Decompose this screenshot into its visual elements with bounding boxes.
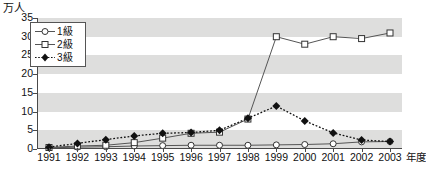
x-axis-tick-label: 1999	[265, 151, 288, 164]
x-axis-tick-label: 1991	[37, 151, 60, 164]
legend-item-1: 1級	[34, 25, 82, 38]
plot-area	[37, 18, 402, 149]
y-axis-tick	[33, 112, 37, 113]
series-layer	[37, 18, 402, 149]
legend-marker-open-square-icon	[34, 39, 56, 50]
x-axis-tick-label: 1994	[123, 151, 146, 164]
x-axis-tick-label: 2001	[321, 151, 344, 164]
y-axis-tick	[33, 18, 37, 19]
data-point-marker-open-square	[273, 34, 279, 40]
legend-marker-open-circle-icon	[34, 26, 56, 37]
x-axis-tick-label: 1996	[179, 151, 202, 164]
x-axis-tick-label: 2002	[350, 151, 373, 164]
y-axis-tick-label: 20	[21, 68, 33, 79]
y-axis-tick	[33, 93, 37, 94]
y-axis-tick	[33, 74, 37, 75]
data-point-marker-open-circle	[302, 142, 308, 148]
legend-label-3: 3級	[57, 52, 73, 63]
legend-item-2: 2級	[34, 38, 82, 51]
data-point-marker-filled-diamond	[130, 132, 138, 140]
legend-label-1: 1級	[57, 26, 73, 37]
x-axis-tick-label: 1997	[208, 151, 231, 164]
data-point-marker-filled-diamond	[386, 138, 394, 146]
y-axis-tick-label: 15	[21, 87, 33, 98]
chart-legend: 1級 2級 3級	[30, 22, 86, 67]
legend-item-3: 3級	[34, 51, 82, 64]
data-point-marker-open-circle	[273, 142, 279, 148]
legend-label-2: 2級	[57, 39, 73, 50]
data-point-marker-open-square	[330, 34, 336, 40]
y-axis-tick	[33, 149, 37, 150]
x-axis-tick-label: 1998	[236, 151, 259, 164]
x-axis-tick-label: 1993	[94, 151, 117, 164]
y-axis-tick-label: 10	[21, 106, 33, 117]
data-point-marker-filled-diamond	[329, 129, 337, 137]
x-axis-tick-label: 2000	[293, 151, 316, 164]
x-axis-tick-label: 1995	[151, 151, 174, 164]
y-axis-tick	[33, 130, 37, 131]
data-point-marker-open-square	[359, 36, 365, 42]
y-axis-tick-labels: 05101520253035	[0, 0, 33, 174]
data-point-marker-filled-diamond	[272, 102, 280, 110]
data-point-marker-open-circle	[330, 141, 336, 147]
x-axis-tick-label: 2003	[378, 151, 401, 164]
data-point-marker-open-square	[131, 140, 137, 146]
data-point-marker-open-square	[302, 41, 308, 47]
x-axis-tick-label: 1992	[66, 151, 89, 164]
legend-marker-filled-diamond-icon	[34, 52, 56, 63]
data-point-marker-open-square	[387, 30, 393, 36]
x-axis-tick-labels: 1991199219931994199519961997199819992000…	[0, 151, 414, 169]
data-point-marker-filled-diamond	[301, 117, 309, 125]
x-axis-title: 年度	[406, 151, 426, 164]
